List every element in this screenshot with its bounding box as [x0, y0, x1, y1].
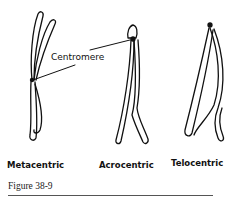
chromosome-drawings: [0, 0, 237, 204]
pointer-line-acrocentric: [90, 40, 130, 50]
acrocentric-centromere-dot: [131, 37, 135, 41]
acrocentric-label: Acrocentric: [99, 160, 154, 170]
telocentric-chromosome: [185, 28, 224, 141]
metacentric-centromere-dot: [30, 78, 34, 82]
telocentric-label: Telocentric: [171, 158, 223, 168]
metacentric-label: Metacentric: [7, 160, 64, 170]
figure-caption: Figure 38-9: [8, 181, 53, 191]
caption-rule: [8, 195, 213, 196]
telocentric-centromere-dot: [208, 23, 212, 27]
metacentric-chromosome: [30, 12, 56, 140]
centromere-label: Centromere: [51, 52, 104, 62]
chromosome-diagram: Centromere Metacentric Acrocentric Teloc…: [0, 0, 237, 204]
